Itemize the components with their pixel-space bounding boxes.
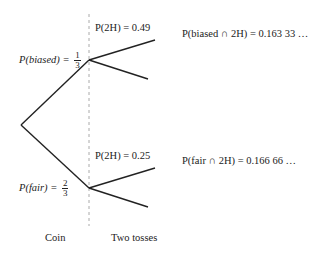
p-fair-and-2h: P(fair ∩ 2H) = 0.166 66 … — [182, 156, 296, 167]
p-2h-fair: P(2H) = 0.25 — [95, 151, 150, 162]
p-biased-fraction: 1 3 — [74, 51, 81, 70]
branch-biased-2H — [89, 40, 155, 60]
p-biased-label: P(biased) = 1 3 — [19, 51, 81, 70]
p-2h-biased: P(2H) = 0.49 — [95, 23, 150, 34]
p-biased-and-2h: P(biased ∩ 2H) = 0.163 33 … — [182, 29, 308, 40]
column-label-coin: Coin — [45, 233, 65, 244]
column-label-tosses: Two tosses — [111, 233, 157, 244]
p-fair-label: P(fair) = 2 3 — [19, 179, 68, 198]
branch-fair-2H — [89, 168, 155, 188]
branch-biased-other — [89, 60, 148, 79]
branch-fair-other — [89, 188, 148, 207]
p-fair-fraction: 2 3 — [62, 179, 69, 198]
